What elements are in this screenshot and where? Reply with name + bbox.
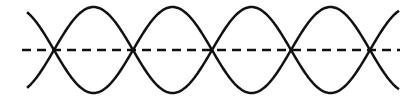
wave-canvas	[0, 0, 420, 99]
standing-wave-diagram	[0, 0, 420, 99]
